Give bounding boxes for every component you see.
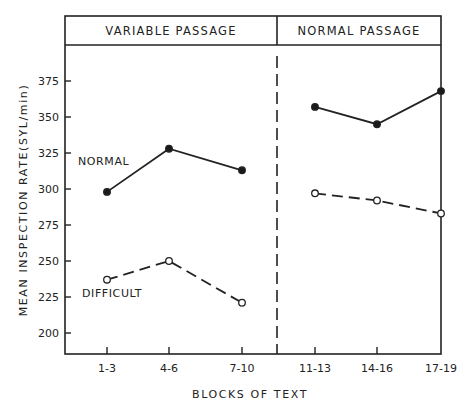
- y-tick-label: 350: [38, 111, 59, 124]
- chart: VARIABLE PASSAGE NORMAL PASSAGE 20022525…: [0, 0, 468, 414]
- y-tick-label: 200: [38, 327, 59, 340]
- y-tick-label: 300: [38, 183, 59, 196]
- data-point: [374, 121, 381, 128]
- data-point: [438, 88, 445, 95]
- x-axis-title: BLOCKS OF TEXT: [192, 388, 308, 401]
- data-point: [166, 258, 173, 265]
- y-tick-label: 225: [38, 291, 59, 304]
- data-point: [438, 210, 445, 217]
- plot-frame: [65, 16, 441, 354]
- data-point: [104, 189, 111, 196]
- series-label-difficult: DIFFICULT: [82, 287, 142, 300]
- x-tick-label: 7-10: [230, 362, 255, 375]
- data-point: [374, 197, 381, 204]
- data-point: [166, 145, 173, 152]
- x-tick-label: 1-3: [98, 362, 116, 375]
- series-normal: [104, 88, 445, 195]
- series-difficult: [104, 190, 445, 306]
- x-tick-label: 11-13: [299, 362, 331, 375]
- y-tick-label: 325: [38, 147, 59, 160]
- x-tick-label: 14-16: [361, 362, 393, 375]
- x-tick-label: 4-6: [160, 362, 178, 375]
- y-tick-label: 275: [38, 219, 59, 232]
- y-axis: 200225250275300325350375: [38, 75, 71, 340]
- data-point: [312, 190, 319, 197]
- y-tick-label: 375: [38, 75, 59, 88]
- series-line: [315, 91, 441, 124]
- panel-label-variable: VARIABLE PASSAGE: [105, 24, 236, 38]
- series-label-normal: NORMAL: [78, 155, 130, 168]
- y-axis-title: MEAN INSPECTION RATE(SYL/min): [17, 84, 30, 317]
- x-tick-label: 17-19: [425, 362, 457, 375]
- data-point: [239, 167, 246, 174]
- data-point: [239, 299, 246, 306]
- data-point: [312, 104, 319, 111]
- panel-label-normal: NORMAL PASSAGE: [297, 24, 420, 38]
- y-tick-label: 250: [38, 255, 59, 268]
- data-point: [104, 276, 111, 283]
